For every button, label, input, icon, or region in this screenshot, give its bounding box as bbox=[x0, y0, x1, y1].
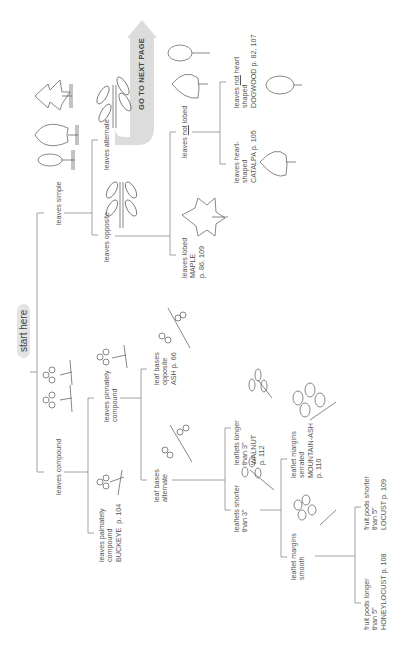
alternate-compound-twig-icon bbox=[162, 425, 192, 462]
go-next-page-arrow-icon bbox=[115, 20, 157, 145]
serrated-leaf-icon bbox=[35, 124, 78, 145]
node-margins-smooth: leaflet margins smooth bbox=[290, 533, 307, 580]
node-leaves-alternate: leaves alternate bbox=[103, 119, 111, 170]
catalpa-leaf-icon bbox=[260, 151, 296, 176]
node-margins-serrated-mountain-ash: leaflet margins serrated MOUNTAIN-ASH p.… bbox=[290, 423, 324, 478]
alternate-branch-icon bbox=[95, 75, 134, 128]
node-leaflets-longer-walnut: leaflets longer than 3" WALNUT p. 112 bbox=[233, 420, 267, 465]
locust-twig-icon bbox=[294, 495, 336, 525]
go-to-next-page-link[interactable]: GO TO NEXT PAGE bbox=[137, 38, 146, 110]
palmate-leaf-icon bbox=[97, 470, 124, 495]
node-leaves-simple: leaves simple bbox=[55, 181, 63, 225]
node-leaves-not-lobed: leaves not lobed bbox=[181, 106, 189, 158]
simple-leaf-icon bbox=[38, 150, 75, 170]
node-leaves-pinnately-compound: leaves pinnately compound bbox=[103, 370, 120, 422]
walnut-twig-icon bbox=[249, 369, 272, 398]
node-leaves-lobed-maple: leaves lobed MAPLE p. 86, 109 bbox=[181, 238, 206, 278]
node-leaflets-shorter: leaflets shorter than 3" bbox=[233, 485, 250, 532]
start-here-badge: start here bbox=[17, 304, 30, 358]
pinnate-compound-icon bbox=[97, 345, 127, 368]
mountain-ash-twig-icon bbox=[293, 383, 336, 420]
lobed-leaf-icon bbox=[35, 80, 72, 110]
node-heart-shaped-catalpa: leaves heart- shaped CATALPA p. 105 bbox=[233, 130, 258, 183]
node-leaves-palmately-buckeye: leaves palmately compound BUCKEYE p. 104 bbox=[98, 504, 123, 562]
node-leaf-bases-alternate: leaf bases alternate bbox=[153, 469, 170, 502]
oval-leaf-icon bbox=[168, 45, 210, 61]
node-leaves-opposite: leaves opposite bbox=[103, 212, 111, 262]
ash-twig-icon bbox=[159, 308, 190, 348]
node-leaf-bases-opposite-ash: leaf bases opposite ASH p. 66 bbox=[153, 352, 178, 385]
maple-leaf-icon bbox=[182, 198, 228, 236]
node-pods-shorter-locust: fruit pods shorter than 5" LOCUST p. 109 bbox=[363, 476, 388, 530]
pinnate-leaf-icon bbox=[43, 385, 72, 412]
node-not-heart-shaped-dogwood: leaves not heart shaped DOGWOOD p. 82, 1… bbox=[233, 35, 258, 109]
compound-leaf-icon-2 bbox=[43, 360, 72, 385]
node-pods-longer-honeylocust: fruit pods longer than 5" HONEYLOCUST p.… bbox=[363, 553, 388, 630]
connector-lines bbox=[0, 0, 415, 669]
dogwood-leaf-icon bbox=[266, 76, 302, 94]
heart-leaf-icon bbox=[172, 74, 208, 98]
node-leaves-compound: leaves compound bbox=[55, 439, 63, 495]
identification-key-diagram: GO TO NEXT PAGE start here leaves simple… bbox=[0, 0, 415, 669]
